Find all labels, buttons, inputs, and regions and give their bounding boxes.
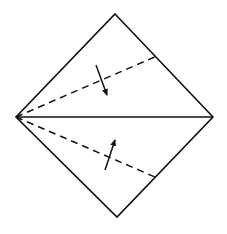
lower-valley-fold	[16, 117, 155, 177]
upper-valley-fold	[16, 56, 157, 117]
fold-down-arrow-icon	[96, 65, 107, 95]
square-outline	[16, 14, 213, 217]
origami-diagram	[0, 0, 227, 234]
fold-up-arrow-icon	[105, 140, 115, 170]
